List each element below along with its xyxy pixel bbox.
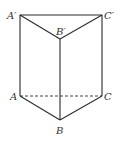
edge-a1-b1 <box>20 15 60 39</box>
label-a-prime: A′ <box>6 10 17 21</box>
edge-b-c <box>60 96 102 120</box>
label-b-prime: B′ <box>55 26 66 37</box>
label-a: A <box>9 91 17 102</box>
label-b: B <box>55 125 63 136</box>
label-c: C <box>104 91 112 102</box>
edge-a-b <box>20 96 60 120</box>
prism-diagram: A′ C′ B′ A C B <box>0 0 122 142</box>
edge-b1-c1 <box>60 15 102 39</box>
label-c-prime: C′ <box>104 10 115 21</box>
